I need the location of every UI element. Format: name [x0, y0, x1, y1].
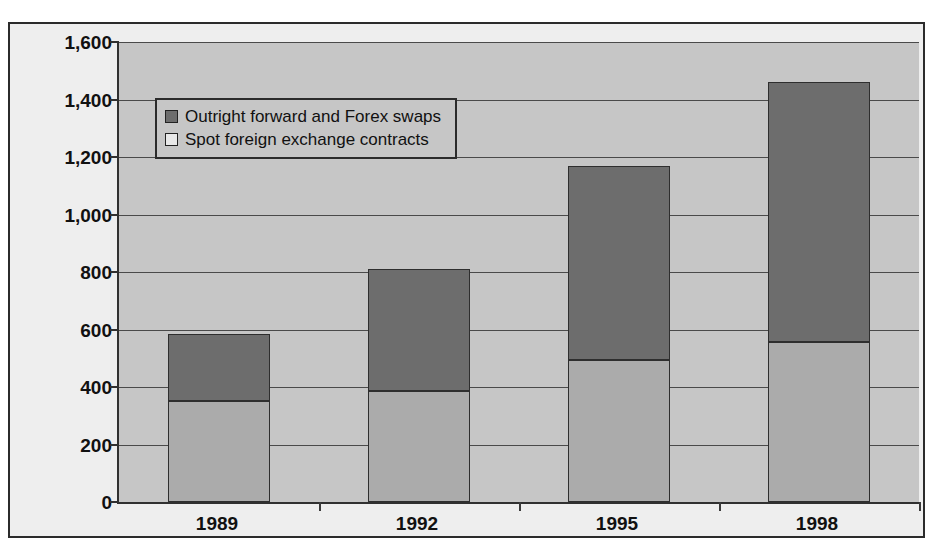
bar-segment-outright-forward[interactable] — [368, 269, 470, 391]
legend-item-spot-fx[interactable]: Spot foreign exchange contracts — [165, 128, 441, 151]
bar-segment-outright-forward[interactable] — [568, 166, 670, 360]
x-axis-category-label: 1995 — [517, 514, 717, 533]
x-axis-tick-mark — [919, 502, 921, 511]
y-axis-tick-label: 1,600 — [20, 33, 112, 52]
legend-swatch-dark-icon — [165, 110, 178, 123]
chart-frame: 02004006008001,0001,2001,4001,600 Outrig… — [8, 22, 925, 538]
legend-swatch-light-icon — [165, 133, 178, 146]
bar-segment-outright-forward[interactable] — [168, 334, 270, 402]
legend-item-outright-forward[interactable]: Outright forward and Forex swaps — [165, 105, 441, 128]
y-axis-tick-label: 600 — [20, 320, 112, 339]
bar-group[interactable] — [568, 42, 670, 502]
y-axis-tick-mark — [110, 214, 119, 216]
y-axis-tick-mark — [110, 41, 119, 43]
chart-legend: Outright forward and Forex swaps Spot fo… — [155, 98, 457, 159]
y-axis-tick-label: 1,400 — [20, 90, 112, 109]
y-axis-tick-label: 1,200 — [20, 148, 112, 167]
y-axis-tick-label: 0 — [20, 493, 112, 512]
y-axis-tick-mark — [110, 501, 119, 503]
bar-segment-spot-fx[interactable] — [368, 391, 470, 502]
y-axis-tick-label: 200 — [20, 435, 112, 454]
legend-label-spot-fx: Spot foreign exchange contracts — [185, 131, 429, 148]
bar-segment-spot-fx[interactable] — [168, 401, 270, 502]
y-axis-tick-mark — [110, 444, 119, 446]
y-axis-tick-mark — [110, 156, 119, 158]
x-axis-tick-mark — [719, 502, 721, 511]
bar-segment-outright-forward[interactable] — [768, 82, 870, 342]
x-axis-category-label: 1998 — [717, 514, 917, 533]
bar-segment-spot-fx[interactable] — [568, 360, 670, 502]
page-background: 02004006008001,0001,2001,4001,600 Outrig… — [0, 0, 934, 545]
x-axis-category-label: 1992 — [317, 514, 517, 533]
y-axis-tick-mark — [110, 99, 119, 101]
legend-label-outright-forward: Outright forward and Forex swaps — [185, 108, 441, 125]
y-axis-tick-label: 1,000 — [20, 205, 112, 224]
bar-segment-spot-fx[interactable] — [768, 342, 870, 502]
x-axis-category-label: 1989 — [117, 514, 317, 533]
y-axis-tick-mark — [110, 271, 119, 273]
y-axis-tick-label: 400 — [20, 378, 112, 397]
y-axis-tick-label: 800 — [20, 263, 112, 282]
y-axis-tick-mark — [110, 386, 119, 388]
y-axis-tick-mark — [110, 329, 119, 331]
x-axis-tick-mark — [319, 502, 321, 511]
x-axis-tick-mark — [519, 502, 521, 511]
bar-group[interactable] — [768, 42, 870, 502]
